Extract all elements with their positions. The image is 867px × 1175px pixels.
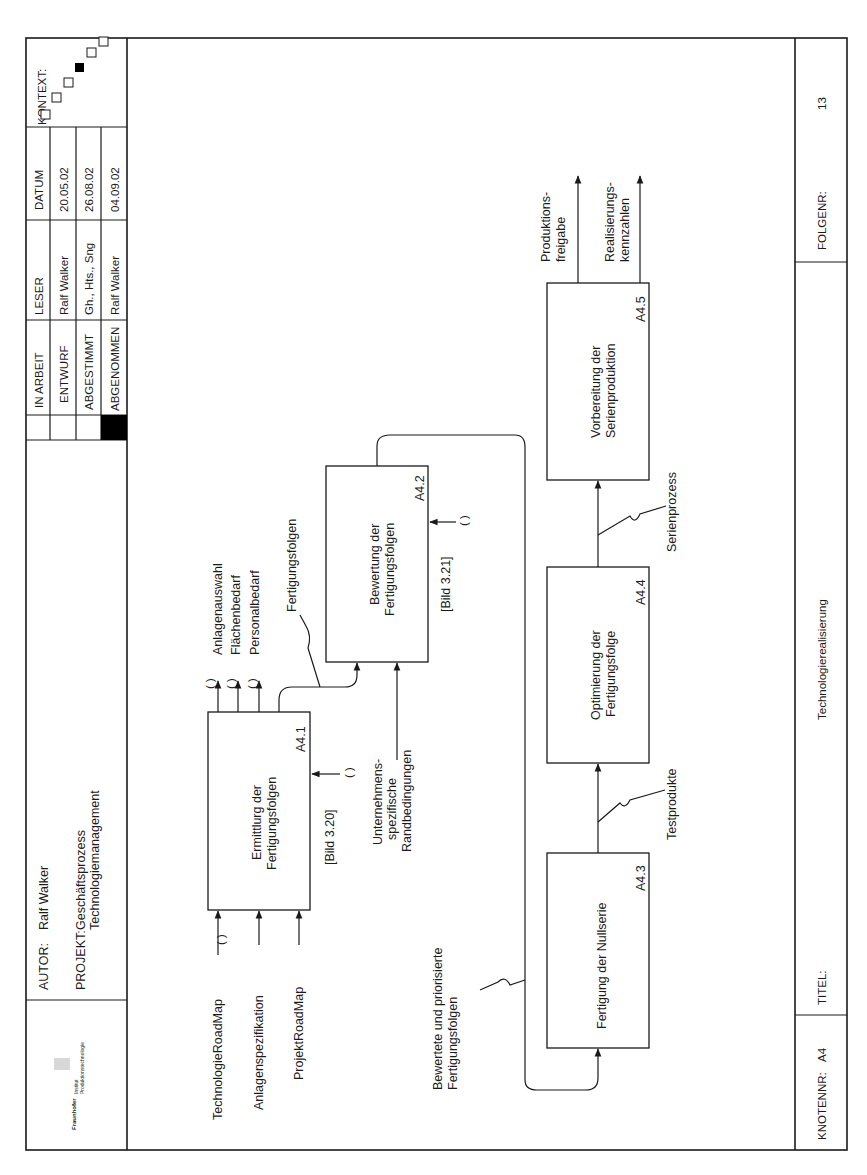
datum-value: 20.05.02 [58,167,70,212]
logo-brand: Fraunhofer [71,1098,77,1130]
datum-value: 26.08.02 [83,167,95,212]
label-fertigungsfolgen: Fertigungsfolgen [285,519,299,612]
label-bewertete-2: Fertigungsfolgen [446,997,460,1090]
titel-value: Technologierealisierung [816,599,828,720]
box-title-line2: Serienproduktion [604,343,618,438]
leser-value: Ralf Walker [109,256,121,315]
label-produktionsfreigabe-2: freigabe [554,217,568,262]
label-randbedingungen-2: spezifische [385,778,399,840]
label-randbedingungen-3: Randbedingungen [400,750,414,852]
activity-box-a4-3[interactable]: Fertigung der Nullserie A4.3 [547,853,649,1048]
connector-a43-a44: Testprodukte [598,764,679,853]
input-label-projekt-roadmap: ProjektRoadMap [292,987,306,1080]
footer-block: FOLGENR: 13 TITEL: Technologierealisieru… [795,97,847,1140]
tunnel-marker: ( ) [458,515,470,526]
label-serienprozess: Serienprozess [665,472,679,552]
datum-header: DATUM [33,170,45,210]
label-bewertete-1: Bewertete und priorisierte [431,948,445,1090]
datum-value: 04.09.02 [109,167,121,212]
label-produktionsfreigabe-1: Produktions- [539,192,553,262]
status-entwurf: ENTWURF [58,346,70,404]
box-title-line1: Optimierung der [589,630,603,720]
kontext-active-node-icon [75,63,84,72]
activity-box-a4-5[interactable]: Vorbereitung der Serienproduktion A4.5 [547,283,649,480]
box-title-line1: Ermittlurg der [250,785,264,860]
tunnel-marker: ( ) [215,934,227,945]
box-title-line1: Fertigung der Nullserie [595,903,609,1029]
input-label-anlagenspezifikation: Anlagenspezifikation [252,995,266,1110]
label-realisierungskennzahlen-2: kennzahlen [618,198,632,262]
leser-value: Gh., Hts., Sng [83,243,95,315]
status-in-arbeit: IN ARBEIT [33,352,45,408]
input-arrows: ( ) TechnologieRoadMap Anlagenspezifikat… [211,911,306,1120]
tunnel-marker: ( ) [343,767,355,778]
kontext-node-icons [41,37,108,119]
box-node-id: A4.1 [294,726,308,752]
ref-bild-3-21: [Bild 3.21] [439,556,453,612]
knotennr-value: A4 [816,1047,828,1062]
status-checkbox-abgenommen [101,415,127,440]
leser-header: LESER [33,277,45,315]
box-title-line2: Fertigungsfolgen [383,523,397,616]
output-label-anlagenauswahl: Anlagenauswahl [211,563,225,655]
randbedingungen-arrow: Unternehmens- spezifische Randbedingunge… [371,663,414,852]
box-title-line1: Vorbereitung der [589,346,603,438]
box-title-line2: Fertigungsfolge [604,631,618,717]
box-title-line1: Bewertung der [368,524,382,605]
status-abgenommen: ABGENOMMEN [109,327,121,411]
idef0-diagram-page: KONTEXT: DATUM 20.05.02 26.08.02 04.09.0… [0,0,867,1175]
tunnel-marker: ( ) [246,678,258,689]
header-block: KONTEXT: DATUM 20.05.02 26.08.02 04.09.0… [26,37,127,1130]
leser-value: Ralf Walker [58,256,70,315]
output-label-personalbedarf: Personalbedarf [248,570,262,655]
tunnel-marker: ( ) [204,678,216,689]
activity-box-a4-2[interactable]: Bewertung der Fertigungsfolgen A4.2 [326,466,428,662]
box-node-id: A4.5 [634,296,648,322]
a45-output-arrows: Produktions- freigabe Realisierungs- ken… [539,176,640,283]
label-randbedingungen-1: Unternehmens- [371,759,385,845]
box-node-id: A4.2 [413,475,427,501]
activity-box-a4-1[interactable]: Ermittlurg der Fertigungsfolgen A4.1 [208,712,310,910]
titel-label: TITEL: [816,970,828,1005]
input-label-technologie-roadmap: TechnologieRoadMap [211,999,225,1120]
label-testprodukte: Testprodukte [665,768,679,840]
connector-a44-a45: Serienprozess [598,472,679,567]
projekt-line2: Technologiemanagement [88,790,102,930]
tunnel-marker: ( ) [225,678,237,689]
folgenr-value: 13 [816,97,828,110]
box-title-line2: Fertigungsfolgen [265,777,279,870]
box-node-id: A4.3 [634,865,648,891]
logo-mark-icon [54,1058,70,1070]
projekt-line1: Geschäftsprozess [74,830,88,930]
autor-value: Ralf Walker [37,866,51,930]
logo-line2: Produktionstechnologie [79,1042,85,1094]
projekt-label: PROJEKT: [74,930,88,990]
ref-bild-3-20: [Bild 3.20] [323,809,337,865]
output-label-flaechenbedarf: Flächenbedarf [229,575,243,655]
autor-label: AUTOR: [37,943,51,990]
box-node-id: A4.4 [634,579,648,605]
folgenr-label: FOLGENR: [816,191,828,250]
label-realisierungskennzahlen-1: Realisierungs- [603,182,617,262]
knotennr-label: KNOTENNR: [816,1072,828,1140]
a41-output-arrows: ( ) ( ) ( ) Anlagenauswahl Flächenbedarf… [204,563,262,712]
activity-box-a4-4[interactable]: Optimierung der Fertigungsfolge A4.4 [547,567,649,763]
status-abgestimmt: ABGESTIMMT [83,334,95,410]
fraunhofer-logo: Fraunhofer Institut Produktionstechnolog… [54,1042,85,1130]
